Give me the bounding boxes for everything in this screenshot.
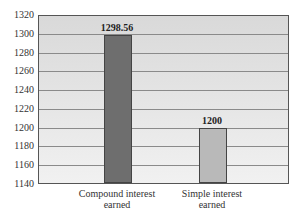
- y-tick-label: 1300: [0, 29, 34, 39]
- gridline: [39, 90, 288, 91]
- y-tick-label: 1280: [0, 48, 34, 58]
- gridline: [39, 128, 288, 129]
- x-category-label: Simple interestearned: [157, 188, 267, 210]
- y-tick-label: 1180: [0, 141, 34, 151]
- y-tick-label: 1200: [0, 123, 34, 133]
- y-tick-label: 1320: [0, 10, 34, 20]
- y-tick-label: 1160: [0, 160, 34, 170]
- bar-value-label: 1200: [182, 116, 242, 126]
- y-tick-label: 1260: [0, 66, 34, 76]
- y-tick-label: 1220: [0, 104, 34, 114]
- gridline: [39, 146, 288, 147]
- y-tick-label: 1240: [0, 85, 34, 95]
- plot-area: [38, 15, 289, 184]
- gridline: [39, 71, 288, 72]
- gridline: [39, 165, 288, 166]
- x-category-label: Compound interestearned: [62, 188, 172, 210]
- y-tick-label: 1140: [0, 179, 34, 189]
- gridline: [39, 34, 288, 35]
- bar: [199, 128, 227, 183]
- gridline: [39, 53, 288, 54]
- bar: [104, 35, 132, 183]
- bar-value-label: 1298.56: [87, 23, 147, 33]
- gridline: [39, 109, 288, 110]
